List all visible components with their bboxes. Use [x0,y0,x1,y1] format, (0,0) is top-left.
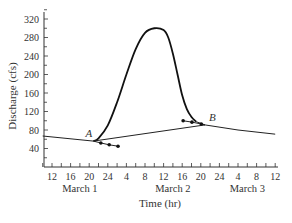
recession-point [199,122,203,126]
y-tick-label: 120 [24,106,39,117]
hydrograph-chart: 4080120160200240280320121620244812162024… [0,0,292,223]
day-label: March 2 [155,183,190,194]
y-tick-label: 240 [24,51,39,62]
y-tick-label: 200 [24,69,39,80]
annotation-a: A [84,127,92,139]
x-tick-label: 8 [143,171,148,182]
day-label: March 3 [230,183,265,194]
x-tick-label: 8 [254,171,259,182]
x-tick-label: 12 [47,171,57,182]
recession-point [116,144,120,148]
x-tick-label: 24 [214,171,224,182]
y-tick-label: 160 [24,88,39,99]
x-axis-label: Time (hr) [139,197,181,210]
hydrograph-peak-curve [93,28,196,141]
recession-point [190,120,194,124]
y-tick-label: 320 [24,14,39,25]
y-tick-label: 80 [29,125,39,136]
x-tick-label: 12 [270,171,280,182]
y-axis-label: Discharge (cfs) [6,62,19,130]
x-tick-label: 12 [159,171,169,182]
recession-point [181,119,185,123]
axes: 4080120160200240280320121620244812162024… [24,10,280,194]
recession-point [107,143,111,147]
recession-point [99,141,103,145]
x-tick-label: 20 [84,171,94,182]
baseflow-separation-line [93,125,205,141]
x-tick-label: 16 [66,171,76,182]
annotation-b: B [209,111,216,123]
x-tick-label: 4 [124,171,129,182]
recession-line [93,141,118,146]
x-tick-label: 20 [196,171,206,182]
x-tick-label: 4 [236,171,241,182]
y-tick-label: 280 [24,32,39,43]
x-tick-label: 16 [177,171,187,182]
plot-area: AB [43,28,276,148]
hydrograph-line-right [196,122,275,134]
y-tick-label: 40 [29,143,39,154]
day-label: March 1 [62,183,97,194]
chart-svg: 4080120160200240280320121620244812162024… [0,0,292,223]
x-tick-label: 24 [103,171,113,182]
